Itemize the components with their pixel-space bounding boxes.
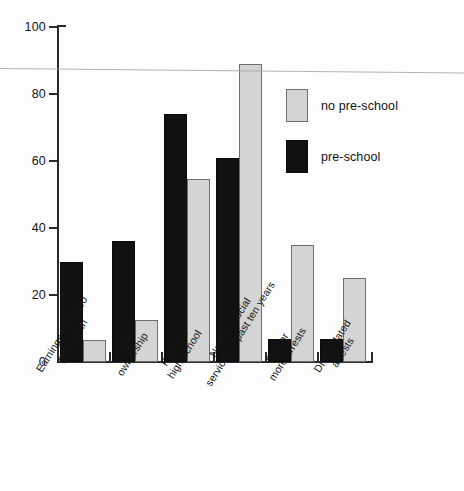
legend-swatch-no-pre-school	[286, 89, 308, 122]
bar-no-preschool-earnings	[83, 340, 106, 362]
legend-item-no-pre-school: no pre-school	[286, 89, 398, 122]
y-axis-label-80: 80	[6, 88, 46, 101]
y-axis-label-60: 60	[6, 155, 46, 168]
bar-chart: 100 80 60 40 20 0 Earning	[0, 0, 464, 491]
legend-label-no-pre-school: no pre-school	[321, 99, 398, 113]
y-axis-label-20: 20	[6, 289, 46, 302]
legend-label-pre-school: pre-school	[321, 150, 380, 164]
y-axis-label-40: 40	[6, 222, 46, 235]
legend-swatch-pre-school	[286, 140, 308, 173]
legend-item-pre-school: pre-school	[286, 140, 380, 173]
plot-area	[58, 27, 372, 362]
y-axis-label-100: 100	[6, 21, 46, 34]
